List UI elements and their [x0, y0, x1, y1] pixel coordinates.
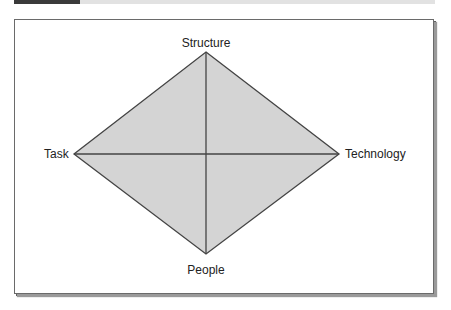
node-label-task: Task	[44, 147, 69, 161]
node-label-technology: Technology	[345, 147, 406, 161]
node-label-structure: Structure	[182, 36, 231, 50]
node-label-people: People	[187, 263, 224, 277]
